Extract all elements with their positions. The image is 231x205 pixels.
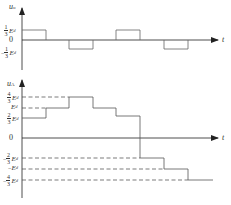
top-pulse-waveform (22, 30, 188, 49)
bottom-plot (22, 80, 218, 198)
top-tick-plus-third-ed: 13 Ed (4, 24, 16, 37)
bottom-tick-minus-four-thirds-ed: − 43 Ed (3, 174, 18, 187)
bottom-x-axis-label: t (222, 134, 224, 142)
waveform-figure (0, 0, 231, 205)
bottom-tick-ed: Ed (11, 104, 18, 110)
bottom-zero-label: 0 (9, 134, 13, 142)
bottom-tick-minus-ed: − Ed (8, 165, 18, 171)
top-x-axis-label: t (222, 36, 224, 44)
bottom-tick-two-thirds-ed: 23 Ed (7, 112, 19, 125)
ua-staircase-waveform (22, 97, 213, 180)
bottom-y-axis-label: uA (7, 80, 15, 89)
top-tick-minus-third-ed: − 13 Ed (1, 46, 16, 59)
reference-dashed-lines (22, 97, 188, 180)
top-y-axis-label: uo (9, 3, 16, 12)
top-zero-label: 0 (9, 36, 13, 44)
top-plot (22, 8, 218, 70)
